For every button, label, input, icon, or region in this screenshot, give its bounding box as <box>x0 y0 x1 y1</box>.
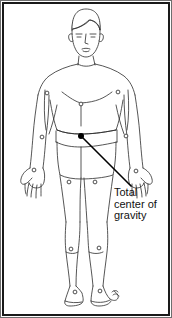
right-foot <box>91 286 119 306</box>
right-arm <box>116 95 143 168</box>
figure-panel: Total center of gravity <box>0 0 172 318</box>
shorts <box>56 130 117 179</box>
marker-hip-left <box>67 180 71 184</box>
body-diagram <box>0 0 172 318</box>
marker-wrist-right <box>134 169 138 173</box>
marker-ankle-right <box>98 289 102 293</box>
marker-knee-left <box>69 247 73 251</box>
left-arm <box>30 95 57 168</box>
left-leg <box>65 222 80 286</box>
head-outline <box>72 9 100 57</box>
right-leg <box>87 222 108 286</box>
marker-wrist-left <box>32 168 36 172</box>
label-line-3: gravity <box>114 210 168 222</box>
face-features <box>76 34 96 52</box>
marker-knee-right <box>97 246 101 250</box>
left-hand <box>21 168 45 198</box>
marker-shoulder-right <box>116 90 120 94</box>
marker-shoulder-left <box>45 91 49 95</box>
chest-lines <box>62 92 112 126</box>
marker-sternum <box>79 102 83 106</box>
marker-elbow-left <box>40 135 44 139</box>
left-foot <box>65 286 83 306</box>
marker-hip-right <box>93 180 97 184</box>
label-line-1: Total <box>114 187 168 199</box>
center-of-gravity-dot <box>78 133 84 139</box>
marker-ankle-left <box>73 290 77 294</box>
center-of-gravity-label: Total center of gravity <box>114 187 168 222</box>
marker-elbow-right <box>124 134 128 138</box>
